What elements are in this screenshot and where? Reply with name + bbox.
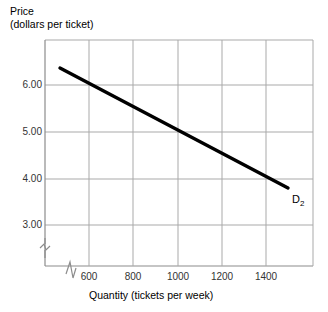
demand-curve-chart: Price (dollars per ticket) 6.00 5.00 4.0… bbox=[0, 0, 328, 312]
curve-label-letter: D bbox=[292, 193, 300, 205]
grid-lines bbox=[45, 40, 313, 266]
y-axis-break-icon bbox=[40, 238, 50, 258]
curve-label-subscript: 2 bbox=[300, 199, 304, 208]
x-axis-title: Quantity (tickets per week) bbox=[89, 289, 213, 302]
x-axis-break-icon bbox=[66, 262, 76, 278]
demand-curve-d2 bbox=[60, 68, 288, 188]
curve-label-d2: D2 bbox=[292, 193, 304, 208]
plot-area bbox=[0, 0, 328, 312]
